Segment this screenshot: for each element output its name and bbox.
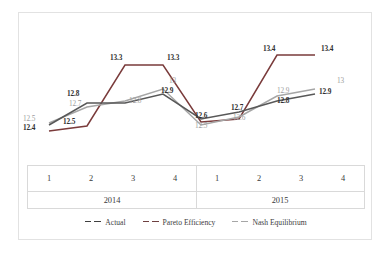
axis-quarter-2015-3: 3	[280, 166, 322, 191]
datalabel-q3-2015-pareto: 13.4	[263, 45, 275, 52]
datalabel-q4-2014-actual: 12.9	[161, 87, 173, 94]
axis-quarter-2015-1: 1	[196, 166, 238, 191]
datalabel-q4-2015-actual: 12.9	[319, 88, 331, 95]
axis-quarter-2014-2: 2	[70, 166, 112, 191]
legend-label-pareto-efficiency: Pareto Efficiency	[163, 218, 216, 227]
axis-quarter-2014-1: 1	[28, 166, 70, 191]
chart-legend: Actual Pareto Efficiency Nash Equilibriu…	[19, 211, 373, 233]
axis-quarter-2015-4: 4	[322, 166, 364, 191]
axis-year-divider	[196, 166, 197, 209]
datalabel-q3-2014-actual: 12.8	[129, 97, 141, 104]
datalabel-q2-2014-actual: 12.8	[67, 90, 79, 97]
datalabel-q4-2015-nash: 13	[337, 77, 344, 84]
legend-label-actual: Actual	[105, 218, 125, 227]
legend-item-nash-equilibrium[interactable]: Nash Equilibrium	[232, 218, 306, 227]
plot-area: 12.5 12.4 12.8 12.7 12.5 13.3 12.8 13.3 …	[19, 13, 373, 163]
datalabel-q4-2014-pareto: 13.3	[167, 54, 179, 61]
datalabel-q1-2014-pareto: 12.4	[23, 124, 35, 131]
legend-swatch-pareto-efficiency-icon	[143, 219, 160, 225]
axis-quarter-2014-3: 3	[112, 166, 154, 191]
legend-item-pareto-efficiency[interactable]: Pareto Efficiency	[143, 218, 216, 227]
axis-quarter-2015-2: 2	[238, 166, 280, 191]
datalabel-q2-2015-actual: 12.7	[231, 104, 243, 111]
axis-quarter-2014-4: 4	[154, 166, 196, 191]
datalabel-q1-2015-actual: 12.6	[195, 112, 207, 119]
legend-swatch-nash-equilibrium-icon	[232, 219, 249, 225]
axis-year-2015: 2015	[196, 192, 364, 209]
line-pareto-efficiency	[49, 55, 315, 131]
datalabel-q1-2015-nash: 12.5	[195, 122, 207, 129]
datalabel-q2-2014-pareto: 12.5	[63, 118, 75, 125]
axis-year-2014: 2014	[28, 192, 196, 209]
legend-swatch-actual-icon	[85, 219, 102, 225]
datalabel-q1-2014-nash: 12.5	[23, 115, 35, 122]
datalabel-q3-2015-nash: 12.9	[277, 87, 289, 94]
datalabel-q2-2015-nash: 12.6	[233, 114, 245, 121]
category-axis-table: 1 2 3 4 1 2 3 4 2014 2015	[27, 165, 365, 209]
legend-label-nash-equilibrium: Nash Equilibrium	[252, 218, 306, 227]
datalabel-q4-2015-pareto: 13.4	[321, 45, 333, 52]
legend-item-actual[interactable]: Actual	[85, 218, 125, 227]
datalabel-q2-2014-nash: 12.7	[69, 100, 81, 107]
datalabel-q3-2014-pareto: 13.3	[110, 54, 122, 61]
datalabel-q4-2014-nash: 13	[169, 77, 176, 84]
line-actual	[49, 94, 315, 125]
chart-frame: 12.5 12.4 12.8 12.7 12.5 13.3 12.8 13.3 …	[18, 12, 372, 240]
datalabel-q3-2015-actual: 12.8	[277, 97, 289, 104]
